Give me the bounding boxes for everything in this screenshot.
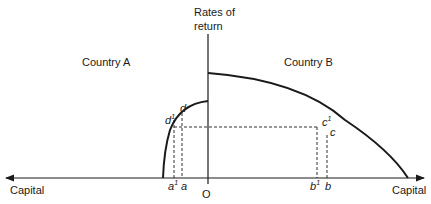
point-a-label: a [181, 180, 187, 192]
point-b-label: b [325, 180, 331, 192]
x-axis-left-label: Capital [10, 184, 44, 196]
point-d1-sup: 1 [171, 113, 175, 120]
point-d1-label: d1 [165, 114, 175, 126]
point-b1-label: b1 [310, 180, 320, 192]
y-axis-label-line1: Rates of [194, 5, 235, 19]
point-c-label: c [330, 126, 336, 138]
y-axis-label-line2: return [194, 19, 235, 33]
point-c1-sup: 1 [328, 115, 332, 122]
origin-label: O [202, 188, 211, 200]
point-a1-sup: 1 [174, 179, 178, 186]
x-axis-right-label: Capital [392, 184, 426, 196]
point-a1-label: a1 [168, 180, 178, 192]
point-b1-sup: 1 [316, 179, 320, 186]
region-right-label: Country B [284, 56, 333, 68]
region-left-label: Country A [82, 56, 130, 68]
y-axis-label: Rates of return [194, 5, 235, 33]
point-d-label: d [180, 102, 186, 114]
country-b-curve [208, 73, 408, 178]
